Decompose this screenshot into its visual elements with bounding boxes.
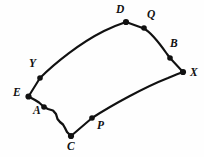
- vertex-dot-P: [89, 115, 95, 121]
- vertex-dot-X: [180, 69, 186, 75]
- label-Q: Q: [147, 9, 155, 21]
- label-B: B: [170, 38, 178, 50]
- edge-top-e-y-d: [29, 22, 127, 97]
- label-A: A: [33, 105, 41, 117]
- label-Y: Y: [29, 58, 36, 70]
- figure-canvas: [0, 0, 204, 157]
- vertex-dot-Y: [37, 75, 43, 81]
- label-X: X: [190, 67, 198, 79]
- label-C: C: [67, 141, 75, 153]
- vertex-dot-C: [68, 133, 74, 139]
- vertex-dot-D: [123, 19, 129, 25]
- label-P: P: [97, 120, 104, 132]
- vertex-dot-A: [41, 104, 47, 110]
- vertex-dot-Q: [141, 25, 147, 31]
- vertex-dot-E: [25, 93, 31, 99]
- label-D: D: [116, 4, 124, 16]
- vertex-dot-B: [167, 55, 173, 61]
- edge-bottom-c-p-x: [71, 72, 183, 136]
- geometry-figure: D Q B X P C A E Y: [0, 0, 204, 157]
- label-E: E: [13, 87, 21, 99]
